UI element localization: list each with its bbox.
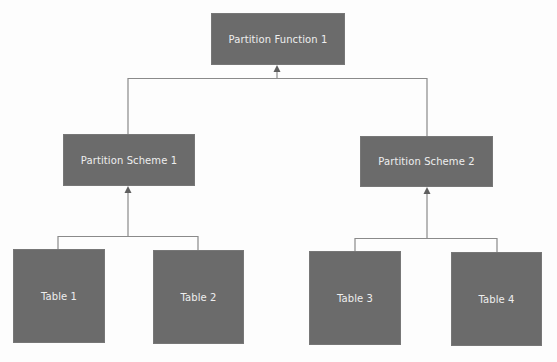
arrow-head-icon [424,187,431,194]
arrow-head-icon [274,65,281,72]
node-partition-scheme-1: Partition Scheme 1 [63,134,195,186]
node-table-4: Table 4 [451,252,542,346]
node-table-2: Table 2 [153,250,244,344]
node-label: Table 2 [180,292,216,303]
node-partition-scheme-2: Partition Scheme 2 [360,136,493,187]
node-label: Table 3 [337,293,373,304]
node-label: Partition Scheme 2 [378,156,474,167]
edge-tables-to-scheme1 [58,189,198,250]
node-label: Table 1 [41,291,77,302]
diagram-canvas: Partition Function 1 Partition Scheme 1 … [0,0,557,362]
node-table-1: Table 1 [13,249,105,343]
node-label: Table 4 [478,294,514,305]
node-table-3: Table 3 [309,251,401,345]
edge-tables-to-scheme2 [355,190,497,252]
edge-schemes-to-function [128,68,427,136]
node-label: Partition Function 1 [229,34,328,45]
arrow-head-icon [125,186,132,193]
node-partition-function-1: Partition Function 1 [211,13,345,65]
node-label: Partition Scheme 1 [81,155,177,166]
